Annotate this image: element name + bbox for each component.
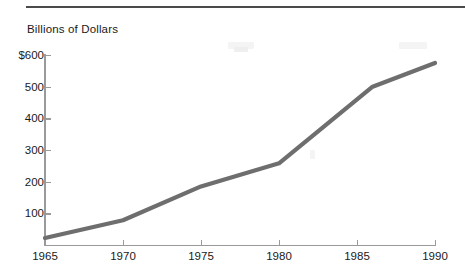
chart-figure: Billions of Dollars $600 500 400 300 200…: [0, 0, 465, 274]
plot-area: $600 500 400 300 200 100 1965 1970 1975: [0, 0, 465, 274]
data-series-line: [45, 63, 435, 238]
series-line-chart: [0, 0, 465, 274]
